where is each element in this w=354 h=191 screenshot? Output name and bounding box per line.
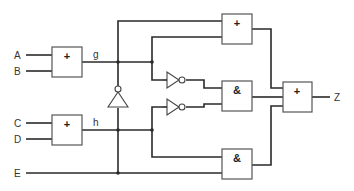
junction-dot [116,60,120,64]
input-label-e: E [14,168,21,179]
or-symbol: + [64,50,70,62]
inverter-triangle-icon [167,99,179,115]
input-label-c: C [14,118,21,129]
or-symbol: + [234,17,240,29]
junction-dot [150,60,154,64]
inversion-bubble-icon [115,86,121,92]
not-gate-h [167,99,185,115]
junction-dot [150,128,154,132]
wire-not-g-out [186,80,222,88]
signal-label-h: h [93,117,99,128]
logic-circuit-diagram: + + + & & + A B C D E g h Z [0,0,354,191]
inverter-triangle-icon [167,72,179,88]
or-symbol: + [64,118,70,130]
wire-t3 [252,106,283,165]
output-label-z: Z [334,92,340,103]
inverter-triangle-icon [108,92,128,107]
inversion-bubble-icon [179,104,185,110]
inversion-bubble-icon [179,77,185,83]
and-symbol: & [233,152,241,164]
input-label-a: A [14,50,21,61]
wire-g-branch [152,37,222,80]
signal-label-g: g [93,49,99,60]
wire-t1 [252,29,283,88]
junction-dot [116,171,120,175]
input-label-b: B [14,66,21,77]
or-symbol: + [294,85,300,97]
not-gate-g [167,72,185,88]
input-label-d: D [14,134,21,145]
junction-dot [116,128,120,132]
wire-h-branch [152,107,222,157]
wire-not-h-out [186,104,222,107]
and-symbol: & [233,84,241,96]
not-gate-e [108,86,128,107]
